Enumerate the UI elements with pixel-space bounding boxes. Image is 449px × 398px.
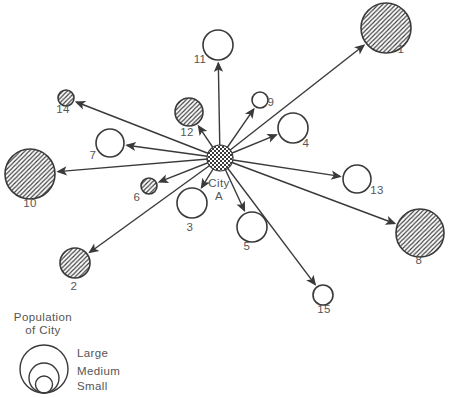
city-number-label-3: 3 [187,221,194,233]
city-number-label-9: 9 [268,96,275,108]
city-number-label-10: 10 [23,197,37,209]
legend-title-line2: of City [25,324,60,336]
center-city-a-circle [207,145,233,171]
city-number-label-6: 6 [134,191,141,203]
legend-circle-large [20,345,68,393]
figure-canvas: 123456789101112131415CityAPopulationof C… [0,0,449,398]
city-circle-9-small-open [252,92,268,108]
city-circle-5-medium-open [237,212,267,242]
city-circle-7-medium-open [96,129,124,157]
city-number-label-13: 13 [370,184,384,196]
city-circle-15-small-open [313,285,333,305]
city-number-label-1: 1 [398,43,405,55]
city-number-label-7: 7 [90,149,97,161]
city-circle-12-medium-hatched [175,98,203,126]
city-number-label-5: 5 [244,240,251,252]
city-number-label-15: 15 [317,303,331,315]
legend-label-large: Large [77,347,108,359]
city-number-label-11: 11 [194,53,207,65]
city-circle-13-medium-open [343,165,371,193]
population-legend: Populationof CityLargeMediumSmall [14,311,120,393]
city-circle-3-medium-open [177,188,207,218]
city-number-label-4: 4 [303,137,310,149]
city-circle-2-medium-hatched [60,248,90,278]
city-circle-8-large-hatched [396,209,444,257]
legend-label-small: Small [77,380,108,392]
city-number-label-8: 8 [416,254,423,266]
flow-arrow-to-city-13 [220,158,340,176]
city-number-label-12: 12 [180,126,194,138]
city-circle-11-medium-open [203,30,233,60]
flow-arrow-to-city-11 [218,63,220,158]
flow-arrow-to-city-15 [220,158,315,285]
legend-circle-medium [29,363,59,393]
legend-label-medium: Medium [77,365,120,377]
legend-circle-small [36,376,53,393]
city-circle-10-large-hatched [5,149,55,199]
flow-arrow-to-city-7 [127,145,220,158]
flow-arrow-to-city-10 [58,158,220,172]
center-city-label-line1: City [208,177,229,189]
city-circle-6-small-hatched [141,178,157,194]
city-flow-diagram: 123456789101112131415CityAPopulationof C… [0,0,449,398]
city-number-label-14: 14 [56,103,70,115]
center-city-label-line2: A [215,190,223,202]
city-number-label-2: 2 [71,280,78,292]
legend-title-line1: Population [14,311,72,323]
